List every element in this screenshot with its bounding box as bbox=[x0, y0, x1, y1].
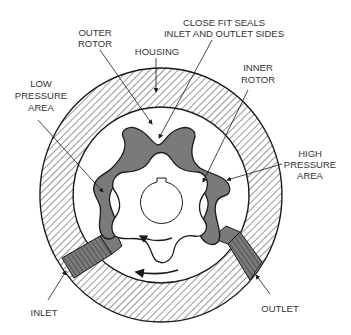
svg-text:INLET AND OUTLET SIDES: INLET AND OUTLET SIDES bbox=[164, 28, 284, 39]
label-outlet: OUTLET bbox=[261, 303, 299, 314]
svg-text:HIGH: HIGH bbox=[298, 148, 322, 159]
svg-text:CLOSE FIT SEALS: CLOSE FIT SEALS bbox=[183, 17, 265, 28]
label-high-pressure-area: HIGH PRESSURE AREA bbox=[284, 148, 336, 181]
svg-text:OUTER: OUTER bbox=[78, 27, 111, 38]
label-close-fit-seals: CLOSE FIT SEALS INLET AND OUTLET SIDES bbox=[164, 17, 284, 39]
gerotor-pump-diagram: OUTER ROTOR HOUSING CLOSE FIT SEALS INLE… bbox=[0, 0, 351, 335]
svg-text:LOW: LOW bbox=[30, 78, 52, 89]
label-inner-rotor: INNER ROTOR bbox=[241, 62, 275, 85]
svg-text:AREA: AREA bbox=[28, 102, 55, 113]
svg-text:AREA: AREA bbox=[297, 170, 324, 181]
label-low-pressure-area: LOW PRESSURE AREA bbox=[15, 78, 67, 113]
label-outer-rotor: OUTER ROTOR bbox=[78, 27, 112, 49]
label-housing: HOUSING bbox=[135, 46, 179, 57]
svg-text:PRESSURE: PRESSURE bbox=[15, 90, 67, 101]
svg-text:INNER: INNER bbox=[243, 62, 273, 73]
label-inlet: INLET bbox=[31, 307, 58, 318]
svg-text:ROTOR: ROTOR bbox=[241, 74, 275, 85]
svg-text:PRESSURE: PRESSURE bbox=[284, 159, 336, 170]
svg-text:ROTOR: ROTOR bbox=[78, 38, 112, 49]
